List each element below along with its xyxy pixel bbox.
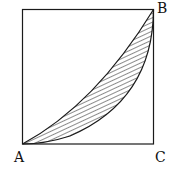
label-c: C [155,149,166,165]
label-b: B [157,0,167,16]
geometry-diagram: A B C [0,0,177,172]
shaded-region [23,10,154,145]
label-a: A [13,149,25,165]
